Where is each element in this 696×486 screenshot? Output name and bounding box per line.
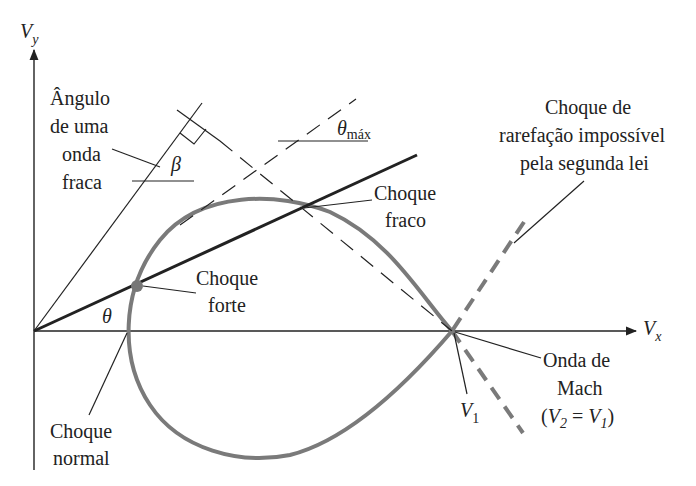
theta-label: θ (102, 305, 112, 327)
leader-v1 (454, 333, 467, 394)
normal-shock-label-2: normal (53, 447, 110, 469)
weak-wave-label-1: Ângulo (50, 87, 110, 110)
leader-normal-shock (89, 333, 127, 415)
shock-polar-diagram: Vy Vx Ângulo de uma onda fraca β θmáx Ch… (0, 0, 696, 486)
strong-shock-point (131, 280, 143, 292)
mach-wave-label-1: Onda de (543, 349, 610, 371)
strong-shock-label-1: Choque (196, 267, 258, 290)
shock-polar-curve (129, 199, 452, 458)
beta-label: β (170, 153, 181, 176)
leader-strong-shock (143, 286, 196, 293)
rarefaction-label-2: rarefação impossível (499, 124, 665, 147)
mach-wave-label-2: Mach (557, 377, 603, 399)
mach-eq-label: (V2 = V1) (541, 405, 614, 431)
rarefaction-dashed-line (452, 222, 524, 331)
weak-wave-label-2: de uma (50, 115, 108, 137)
rarefaction-label-1: Choque de (545, 96, 631, 119)
weak-wave-label-4: fraca (62, 171, 102, 193)
diagram-canvas: Vy Vx Ângulo de uma onda fraca β θmáx Ch… (0, 0, 696, 486)
theta-max-label: θmáx (337, 117, 371, 142)
v1-label: V1 (460, 399, 479, 426)
leader-rarefaction (514, 181, 584, 243)
weak-wave-label-3: onda (62, 143, 101, 165)
weak-shock-label-1: Choque (374, 182, 436, 205)
weak-shock-label-2: fraco (385, 209, 426, 231)
normal-shock-label-1: Choque (50, 420, 112, 443)
vy-label: Vy (20, 20, 39, 47)
theta-max-tangent-line (180, 99, 356, 225)
dashed-normal-line (220, 141, 452, 331)
right-angle-mark (180, 129, 206, 144)
strong-shock-label-2: forte (208, 294, 246, 316)
rarefaction-label-3: pela segunda lei (520, 152, 649, 175)
leader-weak-wave (112, 149, 160, 167)
weak-wave-line (34, 103, 202, 331)
vx-label: Vx (643, 317, 662, 344)
